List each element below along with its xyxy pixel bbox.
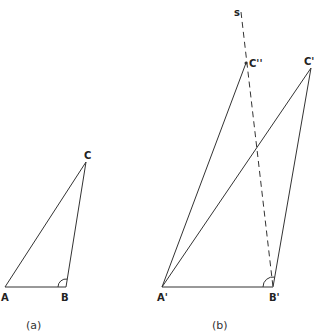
segment-b-prime-c-prime <box>273 68 311 287</box>
point-label-c-prime: C' <box>304 56 314 67</box>
point-label-a: A <box>1 292 9 303</box>
point-label-c: C <box>84 150 91 161</box>
segment-bc <box>66 162 86 287</box>
caption-b: (b) <box>212 319 228 332</box>
segment-a-prime-c-prime <box>162 68 311 287</box>
segment-a-prime-c-double-prime <box>162 63 246 287</box>
line-s <box>241 12 273 287</box>
point-label-a-prime: A' <box>157 292 168 303</box>
point-label-b: B <box>61 292 69 303</box>
line-label-s: s <box>234 7 240 18</box>
figure-a: A B C (a) <box>1 150 91 332</box>
point-label-c-double-prime: C'' <box>249 58 262 69</box>
point-label-b-prime: B' <box>269 292 280 303</box>
diagram-canvas: A B C (a) s C'' C' A' B' (b) <box>0 0 316 336</box>
figure-b: s C'' C' A' B' (b) <box>157 7 314 332</box>
caption-a: (a) <box>26 319 41 332</box>
segment-ac <box>5 162 86 287</box>
point-c-double-prime-dot <box>245 62 248 65</box>
